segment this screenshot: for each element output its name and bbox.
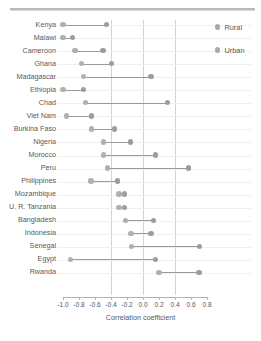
data-point-rural xyxy=(129,244,134,249)
x-axis-line xyxy=(63,297,207,298)
data-point-rural xyxy=(79,61,84,66)
category-label: Ethiopia xyxy=(0,86,56,94)
x-axis-tick-label: 0.2 xyxy=(154,301,163,308)
x-axis-tick-label: -0.4 xyxy=(105,301,116,308)
x-axis-tick xyxy=(95,297,96,300)
category-label: Cameroon xyxy=(0,47,56,55)
category-label: Rwanda xyxy=(0,268,56,276)
legend-item-urban[interactable]: Urban xyxy=(215,43,245,57)
row-guide xyxy=(57,90,251,91)
x-axis-tick xyxy=(207,297,208,300)
data-point-rural xyxy=(116,205,121,210)
row-guide xyxy=(57,273,251,274)
data-point-rural xyxy=(60,35,65,40)
x-axis-tick xyxy=(143,297,144,300)
category-label: Senegal xyxy=(0,242,56,250)
x-axis-tick-label: 0.6 xyxy=(186,301,195,308)
data-point-rural xyxy=(83,100,88,105)
x-axis-title: Correlation coefficient xyxy=(0,313,261,322)
x-axis-tick-label: -1.0 xyxy=(57,301,68,308)
category-label: Viet Nam xyxy=(0,112,56,120)
data-point-urban xyxy=(81,87,86,92)
data-point-rural xyxy=(72,48,77,53)
category-label: Madagascar xyxy=(0,73,56,81)
legend-item-rural[interactable]: Rural xyxy=(215,20,245,34)
category-label: Kenya xyxy=(0,21,56,29)
legend-label: Rural xyxy=(224,23,242,32)
x-axis-tick xyxy=(63,297,64,300)
data-point-urban xyxy=(128,139,133,144)
row-guide xyxy=(57,129,251,130)
row-guide xyxy=(57,208,251,209)
dumbbell-connector xyxy=(91,181,117,182)
data-point-urban xyxy=(115,178,120,183)
dumbbell-chart: KenyaMalawiCameroonGhanaMadagascarEthiop… xyxy=(0,0,261,341)
dumbbell-connector xyxy=(104,142,130,143)
x-axis-tick-label: 0.4 xyxy=(170,301,179,308)
x-axis-tick xyxy=(191,297,192,300)
data-point-urban xyxy=(109,61,114,66)
data-point-rural xyxy=(116,191,121,196)
row-guide xyxy=(57,195,251,196)
data-point-rural xyxy=(68,257,73,262)
x-axis-tick xyxy=(111,297,112,300)
dumbbell-connector xyxy=(63,25,106,26)
x-axis-tick-label: -0.8 xyxy=(73,301,84,308)
row-guide xyxy=(57,182,251,183)
data-point-rural xyxy=(101,152,106,157)
category-label: Peru xyxy=(0,164,56,172)
dumbbell-connector xyxy=(159,272,199,273)
data-point-urban xyxy=(196,270,201,275)
dumbbell-connector xyxy=(104,155,156,156)
data-point-urban xyxy=(100,48,105,53)
dumbbell-connector xyxy=(84,77,151,78)
dumbbell-connector xyxy=(132,246,200,247)
chart-legend: RuralUrban xyxy=(215,20,245,66)
category-label: Malawi xyxy=(0,34,56,42)
x-axis-tick xyxy=(159,297,160,300)
dumbbell-connector xyxy=(66,116,92,117)
data-point-rural xyxy=(128,231,133,236)
data-point-rural xyxy=(88,178,93,183)
row-guide xyxy=(57,142,251,143)
category-label: Nigeria xyxy=(0,138,56,146)
category-label: Morocco xyxy=(0,151,56,159)
data-point-rural xyxy=(123,218,128,223)
data-point-urban xyxy=(70,35,75,40)
category-label: Indonesia xyxy=(0,229,56,237)
data-point-rural xyxy=(60,22,65,27)
category-label: Philippines xyxy=(0,177,56,185)
row-guide xyxy=(57,234,251,235)
gridline-vertical xyxy=(175,20,176,295)
x-axis-tick xyxy=(175,297,176,300)
data-point-urban xyxy=(197,244,202,249)
dumbbell-connector xyxy=(70,259,156,260)
category-label: Bangladesh xyxy=(0,216,56,224)
data-point-urban xyxy=(104,22,109,27)
data-point-urban xyxy=(112,126,117,131)
data-point-urban xyxy=(151,218,156,223)
data-point-urban xyxy=(153,257,158,262)
category-label: Mozambique xyxy=(0,190,56,198)
data-point-rural xyxy=(64,113,69,118)
data-point-urban xyxy=(165,100,170,105)
x-axis-tick-label: -0.6 xyxy=(89,301,100,308)
data-point-urban xyxy=(89,113,94,118)
data-point-rural xyxy=(89,126,94,131)
dumbbell-connector xyxy=(125,220,153,221)
data-point-urban xyxy=(122,205,127,210)
legend-marker-icon xyxy=(215,24,220,29)
x-axis-tick xyxy=(127,297,128,300)
dumbbell-connector xyxy=(81,64,111,65)
data-point-urban xyxy=(122,191,127,196)
data-point-urban xyxy=(186,165,191,170)
category-label: Chad xyxy=(0,99,56,107)
x-axis-tick-label: 0.0 xyxy=(138,301,147,308)
data-point-rural xyxy=(156,270,161,275)
category-label: U. R. Tanzania xyxy=(0,203,56,211)
data-point-urban xyxy=(148,74,153,79)
data-point-rural xyxy=(81,74,86,79)
data-point-urban xyxy=(153,152,158,157)
x-axis-title-label: Correlation coefficient xyxy=(86,313,175,322)
gridline-vertical xyxy=(143,20,144,295)
